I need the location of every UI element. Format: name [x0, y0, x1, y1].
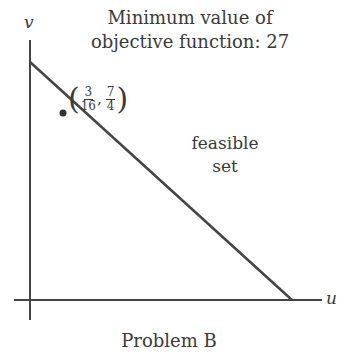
- v-coordinate: 7 4: [106, 86, 116, 113]
- open-paren: (: [68, 84, 80, 114]
- optimal-point-label: ( 3 16 , 7 4 ): [68, 84, 128, 114]
- u-coordinate: 3 16: [81, 86, 96, 113]
- feasible-set-label: feasible set: [180, 132, 270, 178]
- diagram-title: Minimum value of objective function: 27: [60, 6, 320, 54]
- title-line-2: objective function: 27: [60, 30, 320, 54]
- diagram-canvas: [0, 0, 338, 364]
- u-axis-label: u: [326, 288, 337, 308]
- optimal-point-marker: [60, 110, 67, 117]
- title-line-1: Minimum value of: [60, 6, 320, 30]
- close-paren: ): [116, 84, 128, 114]
- diagram-caption: Problem B: [0, 330, 338, 351]
- v-axis-label: v: [24, 12, 34, 32]
